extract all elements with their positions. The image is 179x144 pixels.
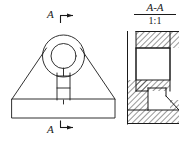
section-arrow-head-top bbox=[67, 14, 73, 18]
hatch-top-flange bbox=[136, 32, 170, 49]
section-arrow-head-bottom bbox=[67, 126, 73, 130]
body-left-slope bbox=[12, 48, 47, 99]
section-label-a-top: A bbox=[47, 9, 54, 20]
front-view bbox=[12, 35, 115, 118]
bore-inner-circle bbox=[51, 44, 76, 69]
hatch-left-web bbox=[127, 80, 148, 110]
section-view-a-a bbox=[127, 32, 179, 125]
hatch-right-upper-stub bbox=[170, 32, 179, 49]
section-label-a-bottom: A bbox=[47, 124, 54, 135]
hatch-bottom-plate bbox=[127, 110, 179, 124]
section-view-scale: 1:1 bbox=[134, 15, 176, 26]
drawing-sheet: A A A-A 1:1 bbox=[0, 0, 179, 144]
section-mark-a-bottom bbox=[60, 121, 73, 130]
section-view-title-block: A-A 1:1 bbox=[134, 2, 176, 26]
bore-cavity bbox=[136, 48, 170, 80]
section-mark-a-top bbox=[60, 14, 73, 23]
body-right-slope bbox=[81, 48, 116, 99]
section-view-title: A-A bbox=[134, 2, 176, 13]
